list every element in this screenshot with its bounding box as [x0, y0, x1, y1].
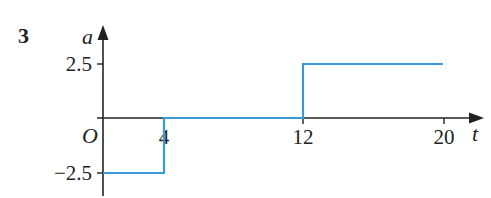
y-axis-arrow-icon	[98, 25, 109, 40]
x-tick-label-20: 20	[434, 125, 455, 149]
y-tick-label-2.5: 2.5	[66, 52, 92, 76]
acceleration-time-graph: 3 a t O 2.5 −2.5 4 12 20	[0, 0, 491, 198]
y-tick-label-neg-2.5: −2.5	[54, 161, 92, 185]
origin-label: O	[82, 123, 98, 148]
x-axis-label: t	[472, 121, 479, 146]
y-axis-label: a	[82, 24, 93, 49]
question-number: 3	[18, 23, 29, 48]
x-tick-label-12: 12	[293, 125, 314, 149]
chart-canvas: 3 a t O 2.5 −2.5 4 12 20	[0, 0, 491, 198]
